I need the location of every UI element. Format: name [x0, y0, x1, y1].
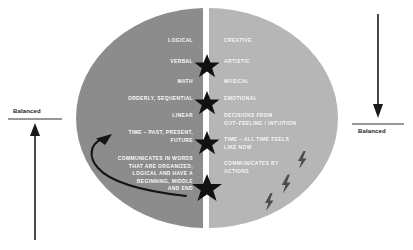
left-label-communicates-in-words: COMMUNICATES IN WORDS THAT ARE ORGANIZED…	[83, 155, 193, 193]
left-balanced-label: Balanced	[13, 108, 41, 114]
right-balanced-label: Balanced	[358, 128, 386, 134]
left-label-time: TIME – PAST, PRESENT, FUTURE	[93, 129, 193, 144]
left-label-orderly-sequential: ORDERLY, SEQUENTIAL	[73, 95, 193, 103]
right-label-emotional: EMOTIONAL	[224, 95, 334, 103]
right-label-creative: CREATIVE	[224, 37, 334, 45]
right-label-artistic: ARTISTIC	[224, 58, 334, 66]
diagram-canvas	[0, 0, 413, 250]
left-balanced-gauge	[8, 119, 62, 240]
hemisphere-divider	[203, 6, 209, 238]
right-label-communicates-by-actions: COMMUNICATES BY ACTIONS	[224, 160, 336, 175]
left-label-math: MATH	[93, 78, 193, 86]
right-label-decisions-from-gut-feeling: DECISIONS FROM GUT–FEELING / INTUITION	[224, 112, 336, 127]
brain-hemispheres-diagram: LOGICAL VERBAL MATH ORDERLY, SEQUENTIAL …	[0, 0, 413, 250]
left-label-logical: LOGICAL	[93, 37, 193, 45]
left-label-linear: LINEAR	[93, 112, 193, 120]
right-balanced-gauge	[352, 14, 404, 124]
right-label-musical: MUSICAL	[224, 78, 334, 86]
left-label-verbal: VERBAL	[93, 58, 193, 66]
right-label-time-all-time-feels-like-now: TIME – ALL TIME FEELS LIKE NOW	[224, 136, 336, 151]
